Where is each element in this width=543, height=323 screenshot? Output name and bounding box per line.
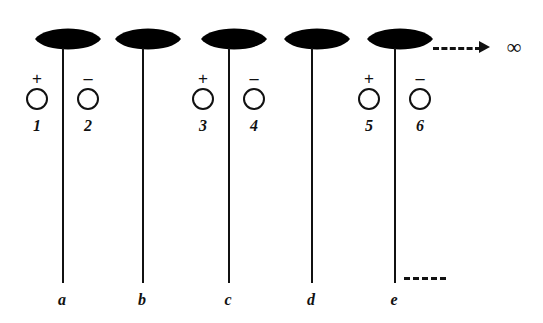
arrow-shaft	[433, 47, 481, 50]
botanical-diagram: + − 1 2 a b + − 3 4 c	[0, 0, 543, 323]
arrow-head-icon	[479, 41, 490, 53]
dashed-arrow-icon	[0, 0, 543, 323]
basal-dashed-segment	[404, 277, 446, 280]
infinity-symbol: ∞	[507, 37, 522, 58]
